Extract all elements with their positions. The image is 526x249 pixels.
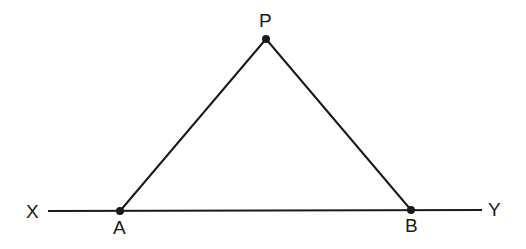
label-a: A [113, 217, 126, 238]
label-y: Y [488, 199, 501, 220]
triangle-diagram: P A B X Y [0, 0, 526, 249]
label-x: X [26, 201, 39, 222]
point-a [116, 207, 124, 215]
label-b: B [405, 215, 418, 236]
line-xy [48, 210, 482, 211]
point-p [262, 35, 270, 43]
label-p: P [259, 10, 272, 31]
segment-pb [266, 39, 411, 210]
point-b [407, 206, 415, 214]
segment-pa [120, 39, 266, 211]
